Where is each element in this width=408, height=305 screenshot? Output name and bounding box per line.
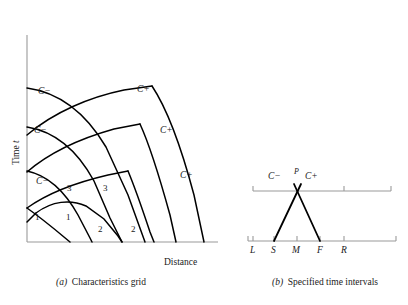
panel-a-region-number-2a: 2 <box>98 225 103 234</box>
panel-b-caption: (b) Specified time intervals <box>272 278 378 288</box>
panel-a-c-plus-label-upper: C+ <box>137 85 150 95</box>
panel-a-characteristic-curves <box>27 86 204 242</box>
panel-a-caption: (a) Characteristics grid <box>56 278 146 288</box>
panel-b-tick-label-L: L <box>250 246 255 256</box>
c-minus-short-branch <box>27 208 70 242</box>
panel-a-caption-marker: (a) <box>56 277 67 287</box>
panel-b-c-plus-label: C+ <box>305 172 318 182</box>
panel-b-c-plus-line <box>294 184 320 241</box>
panel-b-tick-label-R: R <box>341 246 347 256</box>
panel-a-x-axis-label: Distance <box>164 258 197 268</box>
panel-b-caption-marker: (b) <box>272 277 283 287</box>
figure-canvas <box>0 0 408 305</box>
panel-b-tick-label-M: M <box>292 246 300 256</box>
c-minus-curve-upper <box>27 88 145 242</box>
panel-a-region-number-1b: 1 <box>66 213 71 222</box>
figure-container: C− C− C− C+ C+ C+ 1 1 2 2 3 3 Time t Dis… <box>0 0 408 305</box>
panel-a-y-axis-label: Time t <box>12 140 22 165</box>
panel-b-tick-label-F: F <box>317 246 323 256</box>
panel-a-c-plus-label-middle: C+ <box>160 126 173 136</box>
panel-b-point-p-label: P <box>294 168 299 176</box>
panel-a-c-plus-label-lower: C+ <box>180 171 193 181</box>
panel-a-caption-text: Characteristics grid <box>72 277 146 287</box>
panel-a-c-minus-label-lower: C− <box>36 177 49 187</box>
panel-a-y-axis-label-prefix: Time <box>11 143 21 165</box>
c-minus-tail-right <box>152 86 204 242</box>
panel-a-region-number-3b: 3 <box>103 184 108 193</box>
panel-a-region-number-1a: 1 <box>35 213 40 222</box>
panel-b-axes <box>248 186 396 241</box>
panel-a-region-number-3a: 3 <box>67 184 72 193</box>
panel-a-y-axis-label-italic: t <box>11 140 21 143</box>
panel-b-caption-text: Specified time intervals <box>288 277 378 287</box>
panel-b-characteristic-lines <box>274 184 320 241</box>
panel-a-region-number-2b: 2 <box>131 225 136 234</box>
c-plus-curve-lowest <box>36 202 122 242</box>
panel-b-tick-label-S: S <box>271 246 276 256</box>
c-minus-tail-middle <box>140 124 176 242</box>
panel-a-c-minus-label-upper: C− <box>38 87 51 97</box>
panel-b-c-minus-label: C− <box>268 172 281 182</box>
panel-a-c-minus-label-middle: C− <box>34 126 47 136</box>
